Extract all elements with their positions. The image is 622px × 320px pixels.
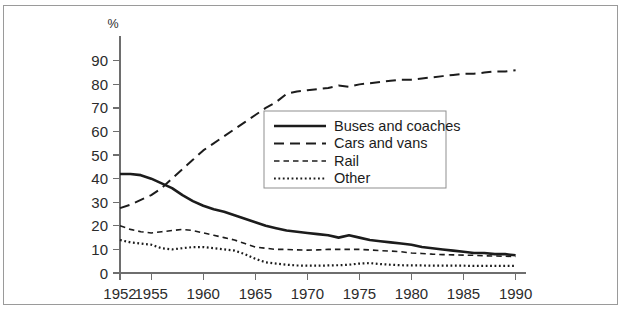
- x-tick-label: 1960: [187, 285, 220, 302]
- y-tick-label: 30: [91, 194, 108, 211]
- x-tick-label: 1955: [135, 285, 168, 302]
- y-tick-label: 10: [91, 241, 108, 258]
- y-tick-label: 80: [91, 76, 108, 93]
- chart-figure: %010203040506070809019521955196019651970…: [3, 5, 618, 305]
- x-tick-label: 1990: [499, 285, 532, 302]
- x-tick-label: 1952: [103, 285, 136, 302]
- legend-label-other: Other: [334, 170, 370, 186]
- y-tick-label: 40: [91, 170, 108, 187]
- y-tick-label: 20: [91, 217, 108, 234]
- y-axis-unit-label: %: [107, 17, 118, 31]
- y-tick-label: 0: [100, 265, 108, 282]
- y-tick-label: 50: [91, 147, 108, 164]
- line-chart: %010203040506070809019521955196019651970…: [4, 6, 617, 304]
- y-tick-label: 70: [91, 99, 108, 116]
- x-tick-label: 1985: [447, 285, 480, 302]
- x-tick-label: 1965: [239, 285, 272, 302]
- legend-label-cars-and-vans: Cars and vans: [334, 135, 428, 151]
- legend-label-buses-and-coaches: Buses and coaches: [334, 118, 461, 134]
- x-tick-label: 1970: [291, 285, 324, 302]
- series-line-other: [120, 240, 516, 266]
- y-tick-label: 90: [91, 52, 108, 69]
- x-tick-label: 1980: [395, 285, 428, 302]
- legend-label-rail: Rail: [334, 153, 359, 169]
- x-tick-label: 1975: [343, 285, 376, 302]
- y-tick-label: 60: [91, 123, 108, 140]
